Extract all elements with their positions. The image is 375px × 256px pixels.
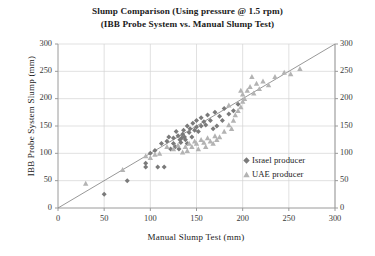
x-tick-label: 50 bbox=[89, 214, 119, 223]
legend-item-israel: Israel producer bbox=[240, 153, 332, 167]
data-point-diamond bbox=[162, 165, 167, 170]
data-point-diamond bbox=[166, 134, 171, 139]
x-axis-label: Manual Slump Test (mm) bbox=[56, 232, 336, 242]
data-point-triangle bbox=[297, 66, 302, 71]
data-point-triangle bbox=[120, 167, 125, 172]
data-point-triangle bbox=[282, 70, 287, 75]
x-tick-label: 100 bbox=[135, 214, 165, 223]
data-point-triangle bbox=[198, 137, 203, 142]
data-point-triangle bbox=[180, 150, 185, 155]
diamond-marker-icon bbox=[240, 157, 252, 164]
data-point-triangle bbox=[143, 153, 148, 158]
y-tick-label-left: 200 bbox=[20, 93, 52, 102]
data-point-triangle bbox=[217, 134, 222, 139]
y-tick-label-right: 0 bbox=[340, 203, 344, 212]
y-tick-label-right: 50 bbox=[340, 175, 348, 184]
y-tick-label-right: 200 bbox=[340, 93, 353, 102]
data-point-triangle bbox=[152, 152, 157, 157]
data-point-diamond bbox=[143, 161, 148, 166]
data-point-diamond bbox=[187, 130, 192, 135]
legend-item-uae: UAE producer bbox=[240, 167, 332, 181]
data-point-diamond bbox=[217, 114, 222, 119]
y-axis-label: IBB Probe System Slump (mm) bbox=[26, 36, 36, 196]
x-tick-label: 250 bbox=[274, 214, 304, 223]
y-tick-label-right: 250 bbox=[340, 66, 353, 75]
data-point-triangle bbox=[254, 81, 259, 86]
data-point-diamond bbox=[214, 124, 219, 129]
y-tick-label-right: 100 bbox=[340, 148, 353, 157]
data-point-diamond bbox=[171, 136, 176, 141]
x-tick-label: 0 bbox=[43, 214, 73, 223]
data-point-triangle bbox=[260, 78, 265, 83]
data-point-diamond bbox=[231, 108, 236, 113]
data-point-diamond bbox=[211, 126, 216, 131]
x-tick-label: 300 bbox=[320, 214, 350, 223]
data-point-diamond bbox=[190, 121, 195, 126]
data-point-diamond bbox=[155, 165, 160, 170]
y-tick-label-left: 50 bbox=[20, 175, 52, 184]
chart-page: Slump Comparison (Using pressure @ 1.5 r… bbox=[0, 0, 375, 256]
data-point-diamond bbox=[189, 134, 194, 139]
y-tick-label-left: 150 bbox=[20, 121, 52, 130]
data-point-diamond bbox=[102, 192, 107, 197]
x-tick-label: 200 bbox=[228, 214, 258, 223]
y-tick-label-right: 150 bbox=[340, 121, 353, 130]
data-point-diamond bbox=[226, 111, 231, 116]
data-point-triangle bbox=[148, 155, 153, 160]
y-tick-label-right: 300 bbox=[340, 39, 353, 48]
data-point-triangle bbox=[257, 86, 262, 91]
x-tick-label: 150 bbox=[182, 214, 212, 223]
y-tick-label-left: 300 bbox=[20, 39, 52, 48]
legend-label-israel: Israel producer bbox=[252, 155, 305, 165]
data-point-diamond bbox=[194, 118, 199, 123]
data-point-diamond bbox=[205, 113, 210, 118]
data-point-triangle bbox=[222, 129, 227, 134]
data-point-triangle bbox=[272, 74, 277, 79]
data-point-diamond bbox=[125, 178, 130, 183]
data-point-diamond bbox=[220, 118, 225, 123]
data-point-triangle bbox=[83, 181, 88, 186]
data-point-triangle bbox=[203, 144, 208, 149]
data-point-triangle bbox=[247, 84, 252, 89]
data-point-triangle bbox=[226, 122, 231, 127]
data-point-diamond bbox=[164, 139, 169, 144]
y-tick-label-left: 100 bbox=[20, 148, 52, 157]
data-point-triangle bbox=[231, 118, 236, 123]
data-point-triangle bbox=[226, 103, 231, 108]
legend: Israel producer UAE producer bbox=[240, 153, 332, 181]
triangle-marker-icon bbox=[240, 171, 252, 178]
y-tick-label-left: 0 bbox=[20, 203, 52, 212]
data-point-diamond bbox=[199, 115, 204, 120]
data-point-triangle bbox=[249, 74, 254, 79]
data-point-diamond bbox=[174, 129, 179, 134]
legend-label-uae: UAE producer bbox=[252, 169, 304, 179]
series-israel bbox=[102, 102, 241, 197]
data-point-triangle bbox=[205, 135, 210, 140]
y-tick-label-left: 250 bbox=[20, 66, 52, 75]
